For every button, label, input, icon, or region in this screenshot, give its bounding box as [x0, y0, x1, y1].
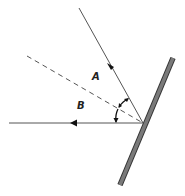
angle-label-a: A — [91, 71, 100, 82]
reflected-ray — [9, 120, 143, 127]
normal-line — [27, 56, 143, 123]
incident-ray — [79, 8, 143, 123]
reflection-diagram: A B — [0, 0, 185, 196]
angle-label-b: B — [77, 100, 85, 111]
arc-arrow-icon — [114, 118, 119, 123]
angle-arc-b — [114, 109, 119, 123]
mirror — [120, 58, 173, 185]
angle-arc-a — [119, 98, 130, 108]
reflected-arrow-icon — [70, 120, 77, 127]
